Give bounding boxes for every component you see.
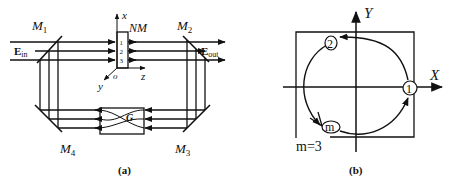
annotation-m-equals: m=3 [296,139,322,154]
point-m-label: m [325,120,335,134]
figure-canvas: M1 M2 M4 M3 Ein Eout NM 1 2 3 x z y o G … [0,0,457,186]
axis-z-label: z [140,70,146,82]
axis-y-b-label: Y [364,5,374,21]
channel-1-label: 1 [120,39,124,47]
panel-b [283,12,442,152]
axis-y-label: y [97,80,103,92]
label-g: G [126,112,134,123]
label-e-out: Eout [201,45,219,59]
label-m3: M3 [174,141,191,158]
channel-3-label: 3 [120,57,124,65]
axis-x-b-label: X [429,67,440,83]
axis-x-label: x [121,9,127,21]
square-frame [296,32,414,138]
label-m1: M1 [31,18,47,35]
point-2-label: 2 [327,37,333,51]
label-nm: NM [128,21,148,35]
point-1-label: 1 [406,82,412,96]
label-e-in: Ein [14,45,28,59]
orbit-arc-1-to-2 [340,37,408,80]
label-m2: M2 [176,18,192,35]
origin-label: o [113,71,118,81]
channel-2-label: 2 [120,48,124,56]
caption-b: (b) [349,164,363,177]
orbit-arc-2-to-m [304,45,327,125]
label-m4: M4 [59,141,76,158]
caption-a: (a) [118,164,131,177]
orbit-arc-m-to-1 [340,98,408,134]
